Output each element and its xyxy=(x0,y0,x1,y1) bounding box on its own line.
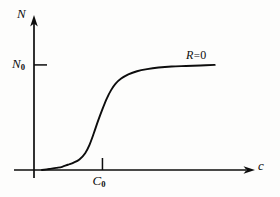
y-axis-label: N xyxy=(17,7,26,20)
x-axis xyxy=(14,166,255,174)
y-tick-label-n0: N0 xyxy=(12,57,25,70)
sigmoid-curve xyxy=(42,65,215,170)
curve-annotation-r: R=0 xyxy=(186,49,207,61)
y-axis xyxy=(30,15,38,178)
x-axis-label: c xyxy=(258,159,264,172)
sigmoid-plot xyxy=(0,0,280,197)
figure-container: N N0 c C0 R=0 xyxy=(0,0,280,197)
x-tick-label-c0: C0 xyxy=(92,174,105,187)
